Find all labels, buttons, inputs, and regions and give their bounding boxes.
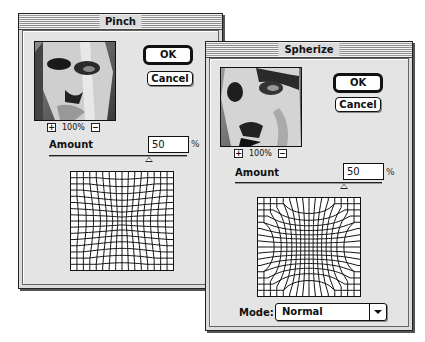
- ok-button[interactable]: OK: [333, 73, 383, 93]
- preview-image[interactable]: [220, 67, 302, 147]
- cancel-button[interactable]: Cancel: [335, 97, 381, 112]
- statue-face-image: [221, 68, 301, 146]
- zoom-out-button[interactable]: −: [278, 149, 287, 158]
- zoom-controls: +100%−: [234, 149, 287, 158]
- pinch-title-bar[interactable]: Pinch: [19, 14, 222, 30]
- percent-sign: %: [191, 139, 200, 149]
- pinch-grid-preview: [70, 171, 174, 271]
- amount-input[interactable]: 50: [343, 163, 384, 180]
- spherize-title-bar[interactable]: Spherize: [206, 42, 412, 58]
- zoom-in-button[interactable]: +: [234, 149, 243, 158]
- distortion-grid: [70, 171, 174, 271]
- amount-slider-track[interactable]: [235, 182, 382, 184]
- amount-input[interactable]: 50: [148, 136, 189, 153]
- pinch-dialog: Pinch +100%− OK Cancel Amount 50 %: [18, 13, 223, 289]
- zoom-level: 100%: [249, 149, 272, 158]
- zoom-level: 100%: [62, 123, 85, 132]
- statue-face-image: [35, 42, 115, 120]
- chevron-down-icon[interactable]: [369, 304, 386, 320]
- spherize-dialog: Spherize +100%− OK Cancel Amount 50 % Mo…: [205, 41, 413, 331]
- zoom-controls: +100%−: [47, 123, 100, 132]
- mode-label: Mode:: [239, 307, 274, 318]
- cancel-button[interactable]: Cancel: [147, 71, 193, 86]
- zoom-in-button[interactable]: +: [47, 123, 56, 132]
- amount-slider-thumb[interactable]: [145, 157, 153, 162]
- dialog-title: Pinch: [99, 15, 142, 28]
- preview-image[interactable]: [34, 41, 116, 121]
- spherize-grid-preview: [257, 197, 361, 297]
- dialog-title: Spherize: [278, 43, 339, 56]
- ok-button[interactable]: OK: [143, 45, 193, 65]
- percent-sign: %: [386, 167, 395, 177]
- amount-label: Amount: [235, 167, 279, 178]
- mode-selected-value: Normal: [282, 304, 323, 320]
- mode-dropdown[interactable]: Normal: [275, 303, 387, 321]
- amount-slider-thumb[interactable]: [340, 184, 348, 189]
- distortion-grid: [257, 197, 361, 297]
- amount-slider-track[interactable]: [49, 155, 187, 157]
- zoom-out-button[interactable]: −: [91, 123, 100, 132]
- amount-label: Amount: [49, 139, 93, 150]
